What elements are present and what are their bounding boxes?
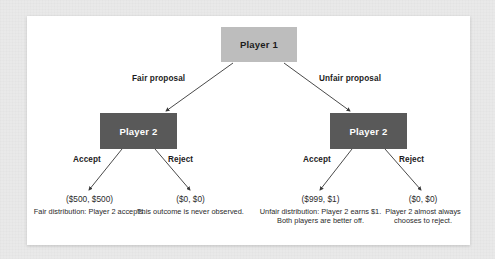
choice-label-left-accept: Accept (73, 155, 101, 164)
figure-canvas: Player 1 Player 2 Player 2 Fair proposal… (0, 0, 495, 259)
node-player-2-right[interactable]: Player 2 (330, 113, 407, 149)
outcome-description: Unfair distribution: Player 2 earns $1. … (258, 207, 383, 226)
choice-label-right-accept: Accept (303, 155, 331, 164)
outcome-right-reject: ($0, $0) Player 2 almost always chooses … (371, 194, 475, 226)
outcome-left-accept: ($500, $500) Fair distribution: Player 2… (31, 194, 148, 216)
choice-label-right-reject: Reject (399, 155, 424, 164)
outcome-right-accept: ($999, $1) Unfair distribution: Player 2… (258, 194, 383, 226)
node-player-1[interactable]: Player 1 (221, 27, 297, 62)
edge-fair-proposal (166, 63, 233, 111)
edge-unfair-proposal (284, 63, 350, 111)
node-player-1-label: Player 1 (240, 39, 278, 50)
outcome-payoff: ($0, $0) (371, 194, 475, 205)
choice-label-left-reject: Reject (168, 155, 193, 164)
outcome-description: Fair distribution: Player 2 accepts. (31, 207, 148, 216)
node-player-2-right-label: Player 2 (349, 126, 387, 137)
edge-label-unfair-proposal: Unfair proposal (319, 74, 381, 83)
node-player-2-left[interactable]: Player 2 (100, 113, 177, 149)
outcome-description: Player 2 almost always chooses to reject… (371, 207, 475, 226)
outcome-payoff: ($500, $500) (31, 194, 148, 205)
outcome-payoff: ($0, $0) (137, 194, 244, 205)
node-player-2-left-label: Player 2 (119, 126, 157, 137)
edge-label-fair-proposal: Fair proposal (132, 74, 185, 83)
outcome-description: This outcome is never observed. (137, 207, 244, 216)
outcome-payoff: ($999, $1) (258, 194, 383, 205)
outcome-left-reject: ($0, $0) This outcome is never observed. (137, 194, 244, 216)
